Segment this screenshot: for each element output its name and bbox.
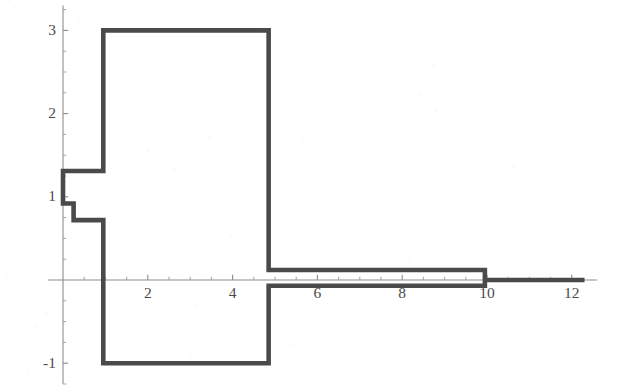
speckle-dot: [45, 312, 49, 316]
speckle-dot: [234, 223, 236, 225]
speckle-dot: [434, 65, 437, 68]
speckle-dot: [203, 201, 206, 204]
speckle-dot: [526, 122, 530, 126]
speckle-dot: [78, 114, 80, 116]
speckle-dot: [140, 248, 142, 250]
speckle-dot: [52, 241, 55, 244]
speckle-dot: [172, 168, 176, 172]
speckle-dot: [574, 338, 576, 340]
speckle-dot: [2, 141, 4, 143]
speckle-dot: [418, 332, 420, 334]
speckle-dot: [565, 320, 568, 323]
speckle-dot: [519, 331, 522, 334]
speckle-dot: [474, 171, 476, 173]
y-axis-tick-label: 1: [48, 187, 56, 204]
speckle-dot: [407, 259, 411, 263]
speckle-dot: [34, 324, 38, 328]
speckle-dot: [473, 141, 476, 144]
speckle-dot: [532, 159, 533, 160]
x-axis-tick-label: 12: [564, 284, 580, 301]
speckle-dot: [433, 82, 435, 84]
x-axis-tick-label: 4: [229, 284, 237, 301]
speckle-dot: [346, 184, 349, 187]
speckle-dot: [33, 274, 37, 278]
speckle-dot: [532, 258, 536, 262]
speckle-dot: [518, 307, 520, 309]
speckle-dot: [193, 304, 197, 308]
speckle-dot: [427, 141, 429, 143]
speckle-dot: [418, 91, 422, 95]
speckle-dot: [163, 314, 164, 315]
speckle-dot: [611, 156, 613, 158]
speckle-dot: [593, 251, 595, 253]
y-axis-tick-label: 3: [48, 21, 56, 38]
y-axis-tick-label: 2: [48, 104, 56, 121]
speckle-dot: [229, 234, 234, 239]
speckle-dot: [331, 87, 332, 88]
speckle-dot: [511, 165, 515, 169]
speckle-dot: [516, 34, 520, 38]
speckle-dot: [32, 254, 34, 256]
speckle-dot: [189, 353, 193, 357]
speckle-dot: [303, 67, 307, 71]
speckle-dot: [26, 373, 29, 376]
speckle-dot: [509, 204, 513, 208]
speckle-dot: [323, 274, 324, 275]
speckle-dot: [301, 137, 305, 141]
speckle-dot: [264, 285, 267, 288]
speckle-dot: [172, 313, 173, 314]
speckle-dot: [146, 148, 151, 153]
speckle-dot: [434, 108, 438, 112]
x-axis-tick-label: 2: [144, 284, 152, 301]
speckle-dot: [335, 21, 338, 24]
speckle-dot: [493, 142, 495, 144]
speckle-dot: [460, 352, 461, 353]
y-axis-tick-label: -1: [43, 354, 56, 371]
speckle-dot: [375, 361, 378, 364]
speckle-dot: [208, 135, 213, 140]
speckle-dot: [527, 316, 531, 320]
speckle-dot: [299, 173, 303, 177]
speckle-dot: [309, 334, 311, 336]
speckle-dot: [493, 311, 496, 314]
plot-container: 24681012 321-1: [0, 0, 618, 385]
speckle-dot: [150, 16, 152, 18]
speckle-dot: [292, 344, 296, 348]
speckle-dot: [339, 122, 341, 124]
speckle-dot: [77, 19, 81, 23]
speckle-dot: [300, 142, 304, 146]
step-function-chart: 24681012 321-1: [0, 0, 618, 385]
speckle-dot: [559, 246, 562, 249]
chart-background: [0, 0, 618, 385]
speckle-dot: [4, 275, 8, 279]
speckle-dot: [301, 210, 304, 213]
speckle-dot: [551, 205, 553, 207]
speckle-dot: [450, 332, 453, 335]
speckle-dot: [192, 270, 196, 274]
